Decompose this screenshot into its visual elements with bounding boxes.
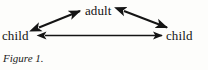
node-label-child-left: child — [2, 29, 29, 42]
node-label-adult: adult — [85, 4, 112, 17]
arrow-adult-to-child-right — [124, 11, 167, 28]
figure-caption: Figure 1. — [3, 52, 44, 64]
node-label-child-right: child — [166, 29, 193, 42]
figure-container: adult child child Figure 1. — [0, 0, 208, 70]
arrow-child-left-to-adult — [39, 11, 80, 28]
